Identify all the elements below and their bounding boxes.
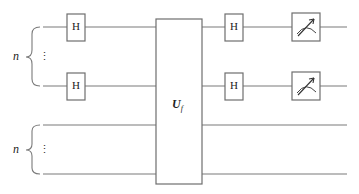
hadamard-label-out-2: H	[225, 79, 243, 91]
ellipsis-bottom: ⋮	[39, 147, 43, 151]
oracle-label-main: U	[172, 97, 181, 111]
hadamard-label-in-1: H	[67, 20, 85, 32]
ellipsis-top: ⋮	[39, 54, 43, 58]
measurement-gate-2	[292, 72, 320, 100]
oracle-label: Uf	[172, 97, 183, 113]
register-label-top: n	[13, 49, 19, 64]
hadamard-label-out-1: H	[225, 20, 243, 32]
measurement-gate-1	[292, 13, 320, 41]
register-brace-bottom	[26, 125, 40, 174]
hadamard-label-in-2: H	[67, 79, 85, 91]
register-brace-top	[26, 27, 40, 86]
register-label-bottom: n	[13, 142, 19, 157]
oracle-label-subscript: f	[181, 104, 183, 113]
